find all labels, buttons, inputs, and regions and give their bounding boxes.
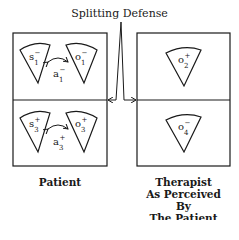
affect-link-a1: a1− [48, 58, 68, 84]
o1-label: o1− [75, 49, 88, 67]
s3-label: s3+ [29, 116, 41, 134]
s1-label: s1− [29, 49, 41, 67]
object-wedge-o4: o4− [166, 115, 201, 152]
object-wedge-o1: o1− [66, 43, 97, 83]
o4-label: o4− [178, 119, 191, 137]
splitting-arrows [108, 22, 136, 100]
therapist-caption-line-1: Therapist [137, 176, 230, 188]
patient-caption: Patient [13, 176, 107, 188]
object-wedge-o2: o2+ [166, 48, 201, 86]
o2-label: o2+ [178, 52, 191, 70]
affect-link-a3: a3+ [48, 125, 68, 152]
therapist-caption-line-2: As Perceived By [137, 188, 230, 212]
self-wedge-s3: s3+ [20, 111, 50, 152]
a1-label: a1− [53, 66, 65, 84]
therapist-caption-line-3: The Patient [137, 212, 230, 220]
therapist-box [137, 33, 230, 166]
object-wedge-o3: o3+ [66, 111, 97, 152]
o3-label: o3+ [75, 116, 88, 134]
self-wedge-s1: s1− [20, 43, 50, 83]
therapist-caption: Therapist As Perceived By The Patient [137, 176, 230, 220]
a3-label: a3+ [53, 134, 65, 152]
